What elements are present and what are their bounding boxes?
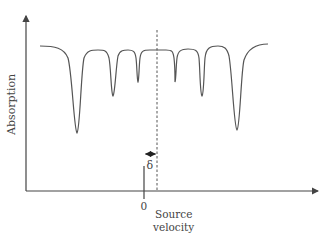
x-axis-label-line2: velocity <box>152 221 194 233</box>
absorption-curve <box>40 44 268 133</box>
delta-label: δ <box>147 159 154 172</box>
mossbauer-spectrum-diagram: Absorption δ 0 Source velocity <box>0 0 330 244</box>
zero-label: 0 <box>141 200 148 212</box>
y-axis-label: Absorption <box>5 74 18 136</box>
x-axis-label-line1: Source <box>155 208 192 220</box>
